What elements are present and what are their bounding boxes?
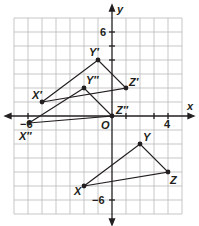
origin-label: O: [101, 119, 110, 131]
label-z-prime: Z′: [128, 76, 140, 88]
point-x: [82, 184, 87, 189]
label-y-prime: Y′: [89, 46, 100, 58]
point-y: [138, 142, 143, 147]
y-axis-up-arrow-icon: [110, 5, 115, 11]
point-y-double-prime: [82, 86, 87, 91]
point-z-double-prime: [110, 114, 115, 119]
point-z-prime: [124, 86, 129, 91]
y-axis-label: y: [116, 3, 124, 15]
y-tick-6: 6: [100, 26, 106, 38]
point-y-prime: [96, 58, 101, 63]
y-tick-neg6: −6: [92, 194, 105, 206]
label-x-double-prime: X″: [18, 130, 32, 142]
point-x-double-prime: [27, 121, 32, 126]
x-axis-label: x: [186, 100, 194, 112]
y-axis-down-arrow-icon: [110, 219, 115, 225]
triangle-xyz: X Y Z: [73, 131, 178, 197]
x-tick-4: 4: [164, 118, 171, 130]
coordinate-plane: y x 6 −6 −6 4 O X Y Z X′ Y′ Z′ X″ Y″ Z″: [0, 0, 199, 226]
label-x-prime: X′: [31, 89, 43, 101]
x-axis-right-arrow-icon: [188, 114, 194, 119]
label-y-double-prime: Y″: [86, 74, 99, 86]
x-axis-left-arrow-icon: [5, 114, 11, 119]
label-y: Y: [143, 131, 152, 143]
label-z: Z: [169, 174, 178, 186]
label-z-double-prime: Z″: [115, 104, 129, 116]
label-x: X: [73, 185, 82, 197]
